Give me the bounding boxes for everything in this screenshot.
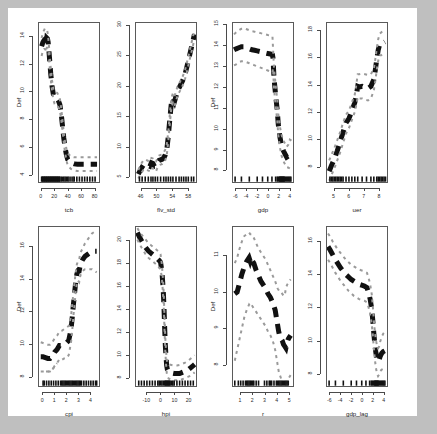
x-tick-mark — [340, 392, 341, 395]
y-axis-line — [320, 241, 321, 374]
y-tick-mark — [317, 274, 320, 275]
y-tick-mark — [317, 374, 320, 375]
plot-canvas: 468101214020406080tcbDef5101520253046505… — [8, 8, 417, 416]
x-axis-line — [329, 392, 383, 393]
y-tick-mark — [317, 307, 320, 308]
x-axis-title: gdp_lag — [316, 410, 398, 417]
x-tick-mark — [362, 392, 363, 395]
x-tick-mark — [329, 392, 330, 395]
y-tick-mark — [317, 241, 320, 242]
figure-root: 468101214020406080tcbDef5101520253046505… — [0, 0, 437, 434]
y-tick-label: 14 — [307, 267, 313, 279]
panel-gdp_lag: 810121416-6-4-2024gdp_lag — [8, 8, 417, 416]
x-tick-mark — [373, 392, 374, 395]
x-tick-mark — [351, 392, 352, 395]
x-tick-label: 4 — [374, 397, 394, 403]
y-tick-mark — [317, 341, 320, 342]
y-tick-label: 10 — [307, 334, 313, 346]
y-tick-label: 16 — [307, 234, 313, 246]
plot-area-gdp_lag — [326, 226, 388, 387]
y-tick-label: 12 — [307, 300, 313, 312]
x-tick-mark — [384, 392, 385, 395]
y-tick-label: 8 — [307, 367, 313, 379]
